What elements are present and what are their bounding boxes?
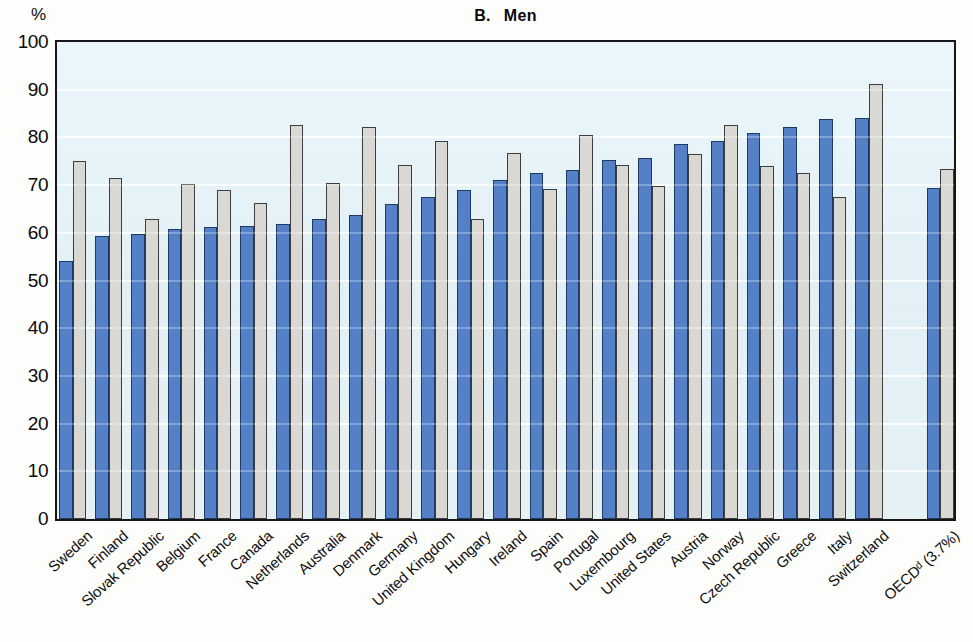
y-tick-label-20: 20 (6, 413, 48, 435)
gridline-70 (57, 184, 954, 186)
gridline-60 (57, 232, 954, 234)
y-axis-unit-label: % (6, 5, 46, 25)
y-tick-label-70: 70 (6, 174, 48, 196)
gridline-80 (57, 136, 954, 138)
gridline-30 (57, 375, 954, 377)
y-tick-label-30: 30 (6, 365, 48, 387)
gridlines-over-layer (57, 42, 954, 519)
gridline-90 (57, 89, 954, 91)
y-tick-label-40: 40 (6, 317, 48, 339)
y-tick-label-80: 80 (6, 126, 48, 148)
x-category-label-24: OECDᵈ (3.7%) (881, 527, 963, 603)
y-tick-label-10: 10 (6, 460, 48, 482)
y-tick-label-90: 90 (6, 79, 48, 101)
x-category-label-13: Ireland (485, 527, 529, 569)
panel-letter: B. (474, 7, 491, 24)
gridline-50 (57, 280, 954, 282)
y-tick-label-100: 100 (6, 31, 48, 53)
chart-title: B.Men (55, 7, 956, 25)
plot-area (55, 40, 956, 521)
gridline-20 (57, 423, 954, 425)
chart-panel: B.Men % 0102030405060708090100 SwedenFin… (0, 0, 973, 642)
y-tick-label-50: 50 (6, 270, 48, 292)
gridline-10 (57, 470, 954, 472)
y-tick-label-0: 0 (6, 508, 48, 530)
panel-title: Men (504, 7, 537, 24)
x-category-label-21: Greece (772, 527, 819, 572)
y-tick-label-60: 60 (6, 222, 48, 244)
x-category-label-1: Sweden (44, 527, 95, 575)
gridline-40 (57, 327, 954, 329)
